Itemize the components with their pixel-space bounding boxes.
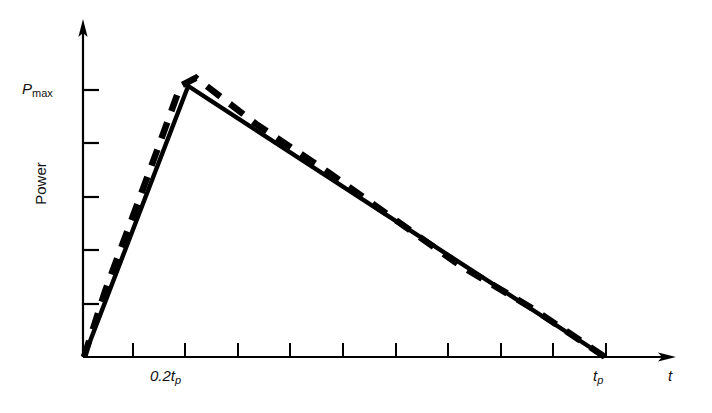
y-axis-ticks [83, 90, 99, 304]
x-axis-ticks [133, 343, 606, 357]
x-axis-title: t [668, 368, 672, 383]
x-tick-label-pulse-duration: tp [593, 368, 603, 386]
series-dashed-actual-pulse [84, 78, 605, 357]
y-axis-title: Power [33, 156, 48, 212]
x-tick-label-peak-time: 0.2tp [150, 368, 181, 386]
chart-canvas [0, 0, 712, 413]
power-pulse-chart: Power Pmax 0.2tp tp t [0, 0, 712, 413]
pmax-symbol: P [22, 80, 32, 97]
peak-time-symbol: 0.2t [150, 367, 175, 384]
y-tick-label-pmax: Pmax [22, 81, 53, 99]
series-solid-idealized-pulse [84, 86, 605, 357]
axes-group [78, 19, 676, 362]
pulse-duration-subscript: p [597, 374, 603, 386]
peak-time-subscript: p [175, 374, 181, 386]
pmax-subscript: max [32, 87, 53, 99]
